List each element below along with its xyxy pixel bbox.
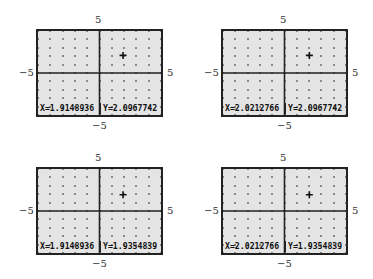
crosshair-cursor-icon bbox=[306, 191, 313, 198]
graph-screen[interactable]: X=1.9148936 Y=1.9354839 bbox=[36, 167, 163, 255]
y-coordinate: Y=1.9354839 bbox=[101, 241, 157, 252]
graph-panel-4: 5 −5 5 −5 X=2.0212766 Y=1.9354839 bbox=[185, 138, 371, 277]
ymax-label: 5 bbox=[280, 153, 286, 163]
xmax-label: 5 bbox=[167, 68, 173, 78]
ymin-label: −5 bbox=[92, 121, 107, 131]
xmin-label: −5 bbox=[204, 206, 219, 216]
ymin-label: −5 bbox=[277, 259, 292, 269]
ymax-label: 5 bbox=[280, 15, 286, 25]
x-coordinate: X=2.0212766 bbox=[224, 103, 286, 114]
xmin-label: −5 bbox=[204, 68, 219, 78]
y-coordinate: Y=2.0967742 bbox=[101, 103, 157, 114]
ymax-label: 5 bbox=[95, 153, 101, 163]
crosshair-cursor-icon bbox=[306, 52, 313, 59]
xmax-label: 5 bbox=[352, 68, 358, 78]
xmin-label: −5 bbox=[19, 206, 34, 216]
y-coordinate: Y=1.9354839 bbox=[286, 241, 342, 252]
crosshair-cursor-icon bbox=[120, 191, 127, 198]
x-coordinate: X=1.9148936 bbox=[39, 241, 101, 252]
cursor-readout: X=1.9148936 Y=2.0967742 bbox=[39, 103, 160, 114]
x-coordinate: X=2.0212766 bbox=[224, 241, 286, 252]
xmin-label: −5 bbox=[19, 68, 34, 78]
graph-screen[interactable]: X=1.9148936 Y=2.0967742 bbox=[36, 29, 163, 117]
y-coordinate: Y=2.0967742 bbox=[286, 103, 342, 114]
graph-screen[interactable]: X=2.0212766 Y=2.0967742 bbox=[221, 29, 348, 117]
x-coordinate: X=1.9148936 bbox=[39, 103, 101, 114]
cursor-readout: X=1.9148936 Y=1.9354839 bbox=[39, 241, 160, 252]
graph-panel-1: 5 −5 5 −5 X=1.9148936 Y=2.0967742 bbox=[0, 0, 186, 139]
cursor-readout: X=2.0212766 Y=2.0967742 bbox=[224, 103, 345, 114]
graph-panel-2: 5 −5 5 −5 X=2.0212766 Y=2.0967742 bbox=[185, 0, 371, 139]
crosshair-cursor-icon bbox=[120, 52, 127, 59]
cursor-readout: X=2.0212766 Y=1.9354839 bbox=[224, 241, 345, 252]
graph-panel-3: 5 −5 5 −5 X=1.9148936 Y=1.9354839 bbox=[0, 138, 186, 277]
ymin-label: −5 bbox=[277, 121, 292, 131]
graph-screen[interactable]: X=2.0212766 Y=1.9354839 bbox=[221, 167, 348, 255]
xmax-label: 5 bbox=[352, 206, 358, 216]
ymin-label: −5 bbox=[92, 259, 107, 269]
xmax-label: 5 bbox=[167, 206, 173, 216]
ymax-label: 5 bbox=[95, 15, 101, 25]
